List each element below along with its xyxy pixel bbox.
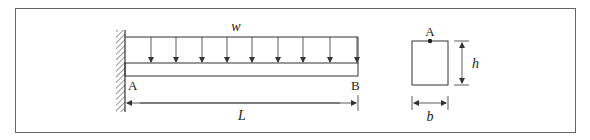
cross-section [412,39,448,85]
beam-end-label-b: B [351,78,360,93]
main-frame [16,9,576,133]
load-arrows [151,37,357,62]
distributed-load: w [125,19,358,63]
beam-end-label-a: A [128,78,138,93]
beam-diagram-figure: w A B L A h b [0,0,590,140]
point-a-marker [428,39,432,43]
section-point-label-a: A [425,24,435,39]
width-label-b: b [427,109,434,124]
outer-frame [16,9,298,133]
figure-border [16,9,297,133]
height-label-h: h [472,56,479,71]
frame [16,9,298,133]
fixed-wall-support [116,30,125,112]
height-dimension [454,41,469,85]
load-label-w: w [231,19,241,34]
diagram-border [16,9,298,133]
length-label-l: L [237,108,246,123]
width-dimension [412,96,448,110]
cantilever-beam [125,63,358,76]
